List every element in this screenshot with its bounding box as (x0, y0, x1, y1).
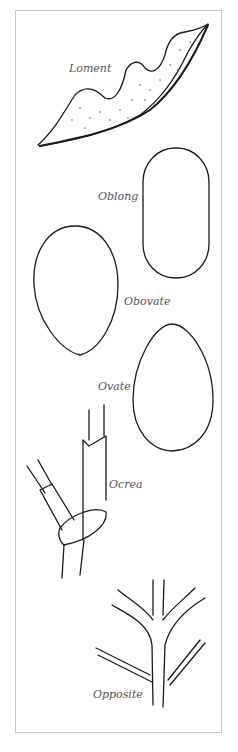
label-opposite: Opposite (93, 688, 143, 701)
label-oblong: Oblong (98, 190, 138, 203)
label-obovate: Obovate (124, 295, 170, 308)
obovate-leaf-drawing (34, 226, 118, 355)
ovate-leaf-drawing (133, 324, 213, 451)
botanical-drawings (0, 0, 238, 752)
oblong-leaf-drawing (143, 148, 209, 278)
label-loment: Loment (69, 62, 111, 75)
ocrea-drawing (27, 405, 106, 578)
label-ocrea: Ocrea (109, 478, 143, 491)
label-ovate: Ovate (98, 380, 131, 393)
loment-drawing (38, 24, 208, 146)
